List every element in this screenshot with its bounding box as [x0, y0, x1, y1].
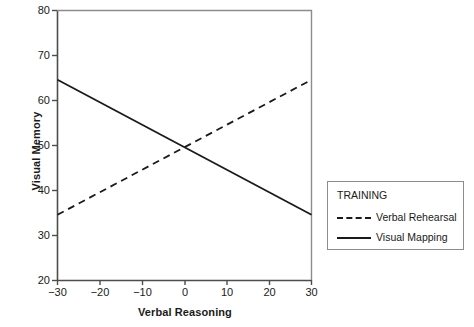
- legend-item-verbal-rehearsal: Verbal Rehearsal: [337, 210, 463, 226]
- x-tick-label-group: −30 −20 −10 0 10 20 30: [0, 287, 474, 303]
- y-tick-label: 70: [20, 50, 50, 61]
- x-tick-label: 30: [292, 287, 332, 298]
- x-tick-label: 20: [250, 287, 290, 298]
- legend-swatch-solid-line: [337, 237, 371, 239]
- y-tick-marks: [52, 11, 57, 281]
- y-tick-label: 30: [20, 230, 50, 241]
- y-tick-label: 20: [20, 275, 50, 286]
- legend-box: TRAINING Verbal Rehearsal Visual Mapping: [327, 181, 464, 250]
- y-axis-title: Visual Memory: [30, 71, 42, 231]
- chart-figure: 80 70 60 50 40 30 20 −30 −20 −10 0 10 20…: [0, 0, 474, 327]
- legend-title: TRAINING: [337, 189, 387, 201]
- legend-item-visual-mapping: Visual Mapping: [337, 230, 463, 246]
- legend-swatch-dashed-line: [337, 217, 371, 219]
- legend-item-label: Visual Mapping: [376, 231, 448, 244]
- x-tick-label: 10: [207, 287, 247, 298]
- x-tick-label: −20: [80, 287, 120, 298]
- x-tick-label: −30: [38, 287, 78, 298]
- y-tick-label: 80: [20, 5, 50, 16]
- x-axis-title: Verbal Reasoning: [57, 306, 313, 318]
- legend-item-label: Verbal Rehearsal: [376, 211, 457, 224]
- plot-area: [0, 0, 474, 327]
- x-tick-label: −10: [123, 287, 163, 298]
- x-tick-label: 0: [165, 287, 205, 298]
